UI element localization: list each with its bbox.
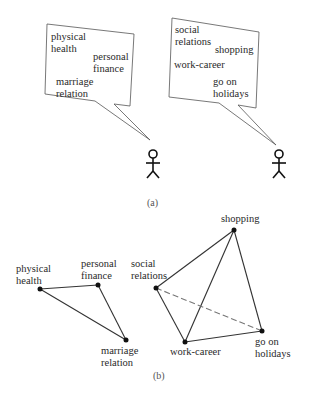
node-physical-health <box>38 287 43 292</box>
graph-label-marriage-relation: marriage relation <box>101 345 138 369</box>
bubble-right-label-go-on-holidays: go on holidays <box>213 76 249 100</box>
person-icon-right <box>272 150 286 178</box>
node-social-relations <box>154 286 159 291</box>
bubble-right-label-shopping: shopping <box>215 44 254 56</box>
bubble-left-label-physical-health: physical health <box>51 31 86 55</box>
node-shopping <box>232 228 237 233</box>
node-go-on-holidays <box>260 329 265 334</box>
node-personal-finance <box>96 283 101 288</box>
graph-label-social-relations: social relations <box>131 258 167 282</box>
graph-label-go-on-holidays: go on holidays <box>255 336 291 360</box>
graph-label-shopping: shopping <box>221 213 260 225</box>
graph-label-personal-finance: personal finance <box>81 258 117 282</box>
bubble-left-label-personal-finance: personal finance <box>93 51 129 75</box>
graph-left-edges <box>40 285 126 340</box>
graph-right-edges <box>156 230 262 342</box>
caption-b: (b) <box>153 370 165 381</box>
graph-label-work-career: work-career <box>170 346 221 358</box>
dashed-edge <box>156 288 262 331</box>
node-marriage-relation <box>124 338 129 343</box>
node-work-career <box>183 340 188 345</box>
person-icon-left <box>146 150 160 178</box>
bubble-right-label-social-relations: social relations <box>175 24 211 48</box>
bubble-right-label-work-career: work-career <box>174 59 225 71</box>
graph-label-physical-health: physical health <box>16 263 51 287</box>
bubble-left-label-marriage-relation: marriage relation <box>56 76 93 100</box>
caption-a: (a) <box>147 197 158 208</box>
